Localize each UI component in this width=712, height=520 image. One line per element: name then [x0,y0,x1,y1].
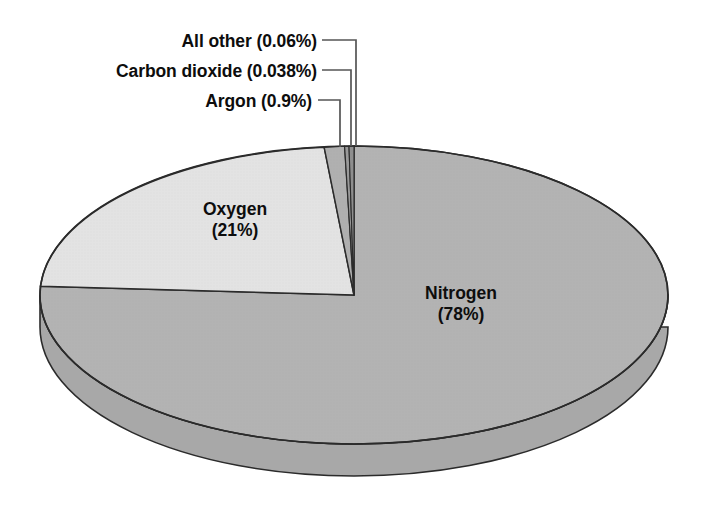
leader-lines-group [318,40,356,147]
callout-label-carbon-dioxide: Carbon dioxide (0.038%) [116,61,317,82]
slice-label-oxygen: Oxygen (21%) [203,199,267,240]
leader-line-argon [318,100,340,147]
slice-label-nitrogen-percent: (78%) [425,304,497,325]
pie-chart-graphic [0,0,712,520]
top-face-texture [41,147,667,444]
callout-label-all-other: All other (0.06%) [182,31,317,52]
callout-label-argon: Argon (0.9%) [205,91,312,112]
pie-chart: All other (0.06%) Carbon dioxide (0.038%… [0,0,712,520]
leader-line-carbon-dioxide [322,70,351,146]
slice-label-nitrogen-name: Nitrogen [425,283,497,303]
slice-label-nitrogen: Nitrogen (78%) [425,283,497,324]
pie-top-face [40,146,668,444]
slice-label-oxygen-name: Oxygen [203,199,267,219]
slice-label-oxygen-percent: (21%) [203,220,267,241]
